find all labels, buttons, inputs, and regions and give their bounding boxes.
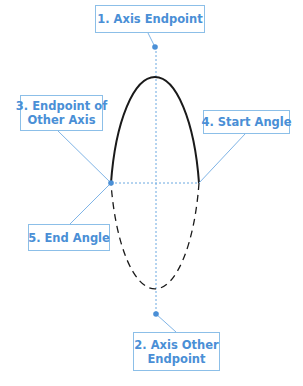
label-text: 5. End Angle [28,231,110,245]
label-axis-other-endpoint: 2. Axis Other Endpoint [133,332,220,371]
ellipse-dashed-arc [111,183,199,289]
axis-other-endpoint-dot [153,311,159,317]
label-endpoint-of-other-axis: 3. Endpoint of Other Axis [20,95,103,131]
leader-line-2 [156,314,176,332]
label-text-line-1: 2. Axis Other [134,338,218,352]
label-text: 1. Axis Endpoint [97,12,203,26]
label-start-angle: 4. Start Angle [203,110,290,134]
ellipse-solid-arc [111,77,199,183]
ellipse-arc-diagram [0,0,303,386]
axis-endpoint-dot [152,44,158,50]
label-end-angle: 5. End Angle [28,224,110,251]
leader-line-5 [70,183,111,224]
other-axis-endpoint-dot [108,180,114,186]
label-text-line-2: Other Axis [27,113,95,127]
label-text-line-2: Endpoint [147,352,205,366]
leader-line-3 [58,131,111,183]
label-axis-endpoint: 1. Axis Endpoint [95,5,205,33]
label-text: 4. Start Angle [201,115,291,129]
label-text-line-1: 3. Endpoint of [16,99,107,113]
leader-line-4 [199,134,245,183]
